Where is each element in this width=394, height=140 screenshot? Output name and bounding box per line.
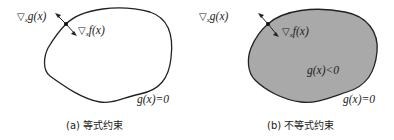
boundary-label: g(x)=0 — [343, 94, 375, 106]
grad-g-label: ▽xg(x) — [199, 11, 228, 24]
nabla-symbol: ▽ — [199, 11, 207, 22]
grad-g-text: g(x) — [210, 10, 229, 22]
tangent-point — [266, 22, 270, 26]
grad-f-label: ▽xf(x) — [282, 26, 309, 39]
nabla-symbol: ▽ — [78, 25, 86, 36]
caption-b: (b) 不等式约束 — [267, 117, 334, 132]
grad-g-text: g(x) — [28, 10, 47, 22]
grad-f-text: f(x) — [293, 25, 309, 37]
grad-g-label: ▽xg(x) — [17, 11, 46, 24]
panel-equality-constraint: ▽xg(x) ▽xf(x) g(x)=0 (a) 等式约束 — [0, 0, 197, 140]
grad-f-text: f(x) — [89, 24, 105, 36]
nabla-symbol: ▽ — [17, 11, 25, 22]
boundary-label: g(x)=0 — [137, 94, 169, 106]
grad-f-label: ▽xf(x) — [78, 25, 105, 38]
panel-inequality-constraint: ▽xg(x) ▽xf(x) g(x)<0 g(x)=0 (b) 不等式约束 — [197, 0, 394, 140]
nabla-symbol: ▽ — [282, 26, 290, 37]
tangent-point — [64, 22, 68, 26]
interior-label: g(x)<0 — [307, 65, 339, 77]
caption-a: (a) 等式约束 — [66, 117, 123, 132]
